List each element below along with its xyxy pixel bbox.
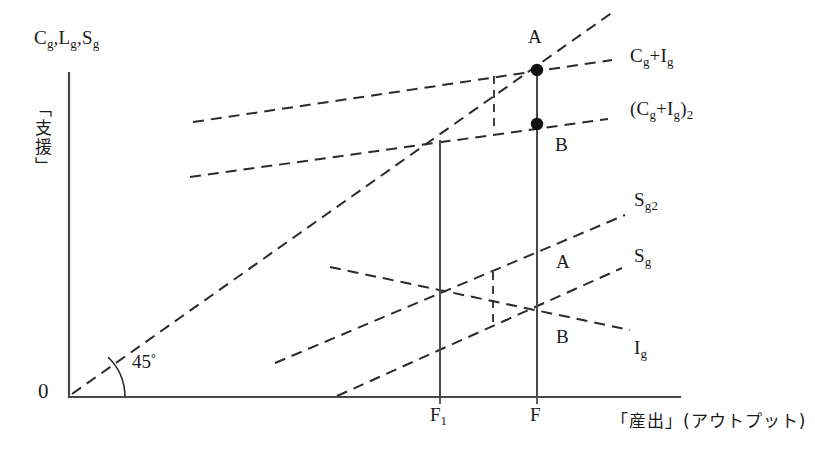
x-axis-ticks bbox=[440, 385, 537, 404]
curve-cg-plus-ig-2 bbox=[190, 119, 608, 177]
curve-cg-plus-ig bbox=[193, 60, 612, 122]
x-tick-label-F1: F1 bbox=[430, 405, 447, 428]
curve-label-cg-ig: Cg+Ig bbox=[630, 46, 674, 69]
y-axis-label: Cg,Lg,Sg bbox=[34, 28, 99, 51]
x-tick-label-F: F bbox=[530, 405, 541, 424]
point-label-b-lower: B bbox=[556, 327, 569, 346]
curve-label-ig: Ig bbox=[634, 338, 647, 361]
marker-point-b bbox=[531, 118, 543, 130]
marker-point-a bbox=[531, 64, 543, 76]
curve-label-cg-ig-2: (Cg+Ig)2 bbox=[630, 99, 693, 122]
y-axis-caption: 「支援」 bbox=[30, 100, 55, 176]
point-label-b-upper: B bbox=[555, 135, 568, 154]
curve-sg bbox=[337, 268, 622, 396]
x-axis-caption: 「産出」(アウトプット) bbox=[611, 407, 806, 432]
origin-label: 0 bbox=[38, 381, 49, 402]
curve-label-sg: Sg bbox=[634, 246, 651, 269]
figure-canvas: Cg,Lg,Sg 「支援」 0 45° F1 F 「産出」(アウトプット) A … bbox=[0, 0, 815, 452]
point-label-a-upper: A bbox=[528, 27, 542, 46]
angle-label-45: 45° bbox=[132, 352, 156, 371]
curve-sg2 bbox=[275, 215, 625, 363]
diagram-svg bbox=[0, 0, 815, 452]
curve-label-sg2: Sg2 bbox=[634, 190, 658, 213]
point-label-a-lower: A bbox=[556, 252, 570, 271]
